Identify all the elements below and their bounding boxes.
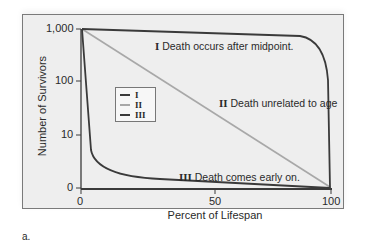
y-tick-100: 100 bbox=[55, 74, 73, 86]
legend-swatch-ii bbox=[120, 104, 130, 106]
legend: I II III bbox=[115, 87, 156, 122]
annotation-ii: II Death unrelated to age bbox=[219, 97, 337, 109]
legend-swatch-i bbox=[120, 94, 130, 96]
x-axis-label: Percent of Lifespan bbox=[150, 209, 280, 221]
legend-swatch-iii bbox=[120, 114, 130, 116]
x-tick-50: 50 bbox=[209, 195, 221, 207]
figure-caption: a. bbox=[22, 231, 30, 242]
legend-item-ii: II bbox=[120, 100, 151, 110]
x-tick-100: 100 bbox=[322, 195, 340, 207]
x-tick-0: 0 bbox=[77, 195, 83, 207]
legend-item-i: I bbox=[120, 90, 151, 100]
y-tick-10: 10 bbox=[61, 128, 73, 140]
annotation-iii: III Death comes early on. bbox=[179, 171, 300, 183]
y-axis-label: Number of Survivors bbox=[36, 51, 48, 161]
legend-item-iii: III bbox=[120, 110, 151, 120]
y-tick-1000: 1,000 bbox=[46, 22, 74, 34]
y-tick-0: 0 bbox=[67, 181, 73, 193]
annotation-i: I Death occurs after midpoint. bbox=[155, 40, 294, 52]
